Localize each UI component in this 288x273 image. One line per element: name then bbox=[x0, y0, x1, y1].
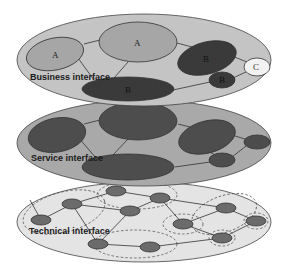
service-interface-label: Service interface bbox=[31, 153, 103, 163]
service-node-top bbox=[99, 102, 177, 140]
tech-node bbox=[212, 233, 232, 243]
tech-node bbox=[173, 219, 193, 229]
tech-node bbox=[120, 206, 140, 216]
tech-node bbox=[62, 199, 82, 209]
tech-node bbox=[140, 242, 160, 252]
tech-node bbox=[106, 186, 126, 196]
technical-interface-label: Technical interface bbox=[29, 226, 110, 236]
service-layer: Service interface bbox=[17, 100, 271, 186]
tech-node bbox=[216, 203, 236, 213]
node-label-a-top: A bbox=[134, 38, 141, 48]
business-layer: A A B C B B Business interface bbox=[17, 14, 271, 106]
business-interface-label: Business interface bbox=[30, 72, 110, 82]
service-node-small bbox=[209, 153, 235, 167]
node-label-c: C bbox=[253, 62, 259, 72]
layered-architecture-diagram: Technical interface Service interface bbox=[0, 0, 288, 273]
node-label-b-bottom: B bbox=[125, 85, 131, 95]
node-label-b-small: B bbox=[219, 75, 225, 85]
service-node-far-right bbox=[244, 135, 270, 149]
tech-node bbox=[31, 215, 51, 225]
technical-layer: Technical interface bbox=[17, 181, 271, 262]
tech-node bbox=[150, 193, 170, 203]
tech-node bbox=[88, 239, 108, 249]
node-label-a-left: A bbox=[52, 50, 59, 60]
node-label-b-right: B bbox=[203, 54, 209, 64]
tech-node bbox=[246, 216, 266, 226]
